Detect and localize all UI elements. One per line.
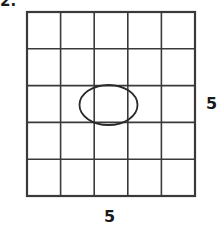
grid-cells bbox=[27, 12, 195, 196]
right-dimension-label: 5 bbox=[206, 96, 217, 112]
grid-diagram bbox=[0, 0, 224, 232]
bottom-dimension-label: 5 bbox=[104, 209, 115, 225]
figure-container: 2. 5 5 bbox=[0, 0, 224, 232]
grid-background bbox=[27, 12, 195, 196]
